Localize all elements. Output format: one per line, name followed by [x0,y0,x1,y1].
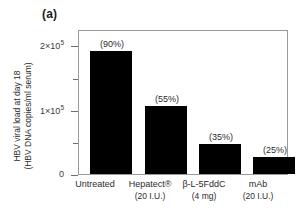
y-tick-label-200000: 2×105 [0,41,64,51]
panel-label: (a) [42,7,57,21]
figure-panel: (a) HBV viral load at day 18 (HBV DNA co… [0,0,304,220]
bar-label-untreated: (90%) [78,39,146,49]
x-axis-label-mab: mAb (20 I.U.) [218,179,298,202]
x-axis-label-mab-main: mAb [249,179,268,189]
y-tick-label-0: 0 [0,169,64,179]
bar-untreated[interactable] [90,51,132,174]
y-tick-mark-100000 [71,111,78,112]
bar-label-hepatect: (55%) [133,94,201,104]
x-axis-label-untreated-main: Untreated [75,179,115,189]
y-tick-mark-200000 [71,46,78,47]
bar-mab[interactable] [253,157,295,174]
y-tick-mark-0 [71,175,78,176]
bar-label-b-l-5fddc: (35%) [187,132,255,142]
bar-b-l-5fddc[interactable] [199,144,241,174]
bar-hepatect[interactable] [145,106,187,174]
y-tick-label-100000: 1×105 [0,106,64,116]
bar-label-mab: (25%) [241,145,304,155]
x-axis-label-mab-sub: (20 I.U.) [218,191,298,203]
